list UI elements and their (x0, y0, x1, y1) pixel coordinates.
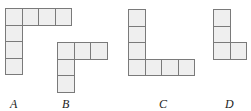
shape-label-c: C (159, 97, 167, 111)
grid-cell (90, 42, 108, 60)
grid-cell (5, 58, 23, 76)
grid-cell (74, 42, 92, 60)
grid-cell (213, 26, 231, 44)
grid-cell (230, 42, 248, 60)
grid-cell (213, 42, 231, 60)
shape-label-a: A (10, 97, 17, 111)
grid-cell (128, 9, 146, 27)
grid-cell (128, 42, 146, 60)
grid-cell (57, 75, 75, 93)
shape-label-d: D (225, 97, 234, 111)
grid-cell (57, 42, 75, 60)
grid-cell (128, 59, 146, 77)
grid-cell (55, 8, 73, 26)
grid-cell (22, 8, 40, 26)
grid-cell (145, 59, 163, 77)
grid-cell (213, 9, 231, 27)
shape-label-b: B (62, 97, 69, 111)
grid-cell (57, 59, 75, 77)
grid-cell (5, 25, 23, 43)
grid-cell (38, 8, 56, 26)
grid-cell (161, 59, 179, 77)
grid-cell (5, 8, 23, 26)
grid-cell (5, 41, 23, 59)
grid-cell (178, 59, 196, 77)
grid-cell (128, 26, 146, 44)
